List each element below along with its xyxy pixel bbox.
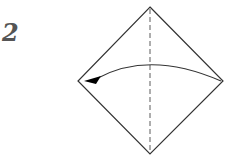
- origami-fold-diagram: [0, 0, 245, 165]
